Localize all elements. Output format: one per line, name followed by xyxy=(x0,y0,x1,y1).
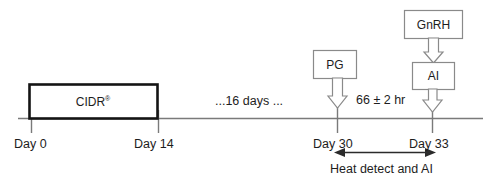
axis-label-day-30: Day 30 xyxy=(313,138,353,151)
registered-trademark-icon: ® xyxy=(105,95,110,102)
gnrh-box-label: GnRH xyxy=(404,19,463,31)
cidr-label-text: CIDR xyxy=(76,95,105,109)
pg-box-label: PG xyxy=(313,59,357,71)
axis-label-day-0: Day 0 xyxy=(14,138,47,151)
gnrh-down-arrow xyxy=(424,38,443,63)
axis-label-day-33: Day 33 xyxy=(409,138,449,151)
heat-detect-span-label: Heat detect and AI xyxy=(330,163,433,176)
protocol-timeline-diagram: CIDR® ...16 days ... 66 ± 2 hr PG GnRH A… xyxy=(0,0,493,185)
ai-box-label: AI xyxy=(412,70,455,82)
pg-down-arrow xyxy=(328,78,347,108)
cidr-box-label: CIDR® xyxy=(29,95,157,108)
gap-duration-label: ...16 days ... xyxy=(215,95,283,108)
axis-label-day-14: Day 14 xyxy=(134,138,174,151)
interval-duration-label: 66 ± 2 hr xyxy=(356,94,405,107)
ai-down-arrow xyxy=(423,89,442,112)
